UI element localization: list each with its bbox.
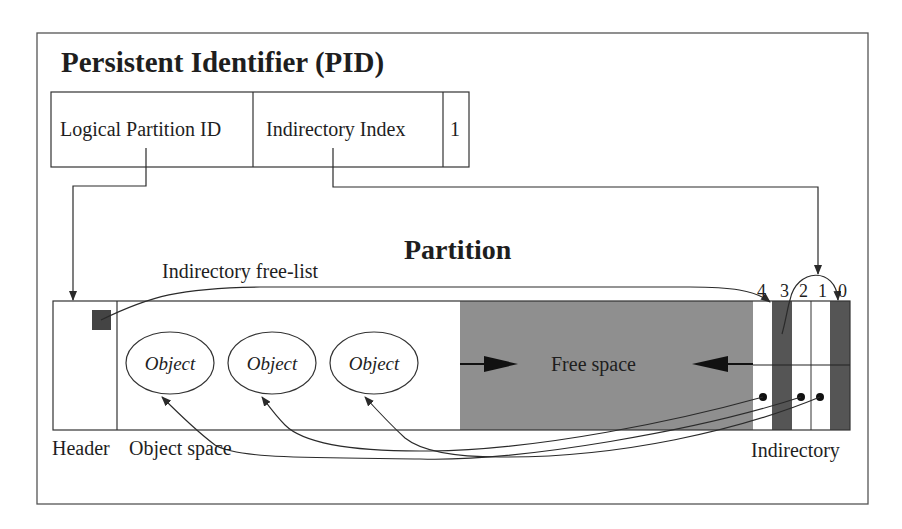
object-label: Object <box>145 353 196 374</box>
slot-number-1: 1 <box>818 281 827 301</box>
slot-number-3: 3 <box>780 281 789 301</box>
slot-number-4: 4 <box>757 281 766 301</box>
partition-title: Partition <box>404 234 512 265</box>
slot-number-0: 0 <box>838 281 847 301</box>
partition-id-connector <box>73 148 146 300</box>
object-space-region-label: Object space <box>129 437 232 460</box>
pid-field-flag: 1 <box>450 118 460 140</box>
slot-number-2: 2 <box>799 281 808 301</box>
pid-field-logical-partition-id: Logical Partition ID <box>60 118 221 141</box>
pid-title: Persistent Identifier (PID) <box>61 46 384 79</box>
object-3: Object <box>330 332 418 394</box>
object-2: Object <box>228 332 316 394</box>
header-region-label: Header <box>52 437 110 459</box>
pid-field-indirectory-index: Indirectory Index <box>266 118 405 141</box>
pid-partition-diagram: Persistent Identifier (PID) Logical Part… <box>0 0 902 529</box>
indirectory-region-label: Indirectory <box>751 439 840 462</box>
free-space-label: Free space <box>551 353 636 376</box>
free-list-label: Indirectory free-list <box>162 260 318 283</box>
pid-box: Logical Partition ID Indirectory Index 1 <box>51 92 469 167</box>
object-label: Object <box>349 353 400 374</box>
object-1: Object <box>126 332 214 394</box>
object-label: Object <box>247 353 298 374</box>
